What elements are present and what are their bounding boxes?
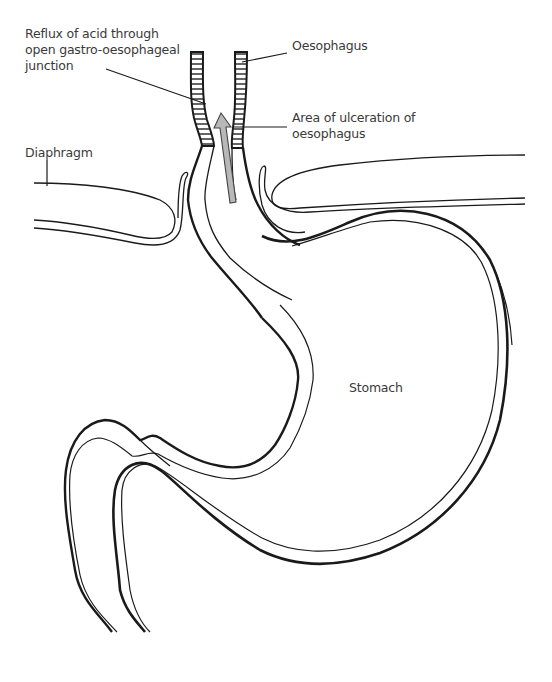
oesophagus-leader-line xyxy=(242,53,287,62)
reflux-label: Reflux of acid through open gastro-oesop… xyxy=(25,26,180,74)
oesophagus-left-wall xyxy=(191,52,214,146)
reflux-diagram: Reflux of acid through open gastro-oesop… xyxy=(0,0,552,682)
diaphragm-label: Diaphragm xyxy=(25,145,93,161)
anatomy-illustration xyxy=(0,0,552,682)
diaphragm-left xyxy=(34,160,188,245)
stomach-outer-wall xyxy=(113,211,512,632)
oesophagus-label: Oesophagus xyxy=(292,38,368,54)
ulceration-label: Area of ulceration of oesophagus xyxy=(292,110,415,142)
stomach-inner-wall xyxy=(65,305,313,632)
oesophagus-right-wall xyxy=(232,52,247,148)
oesophagus-lower xyxy=(188,146,300,318)
stomach-label: Stomach xyxy=(349,380,403,396)
